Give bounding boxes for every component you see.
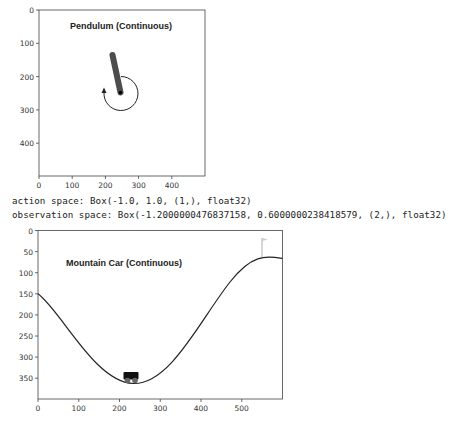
pendulum-xtick-300: 300 — [131, 181, 146, 190]
pendulum-ytick-200: 200 — [20, 73, 35, 82]
mc-ytick-100: 100 — [19, 269, 34, 278]
pendulum-title: Pendulum (Continuous) — [70, 21, 172, 31]
mc-ytick-150: 150 — [19, 290, 34, 299]
mountain-car-plot: 0 50 100 150 200 250 300 350 0 100 200 3… — [19, 227, 283, 414]
mc-xtick-500: 500 — [235, 404, 250, 413]
pendulum-x-ticks: 0 100 200 300 400 — [37, 176, 180, 190]
mountain-car-y-ticks: 0 50 100 150 200 250 300 350 — [19, 227, 38, 384]
pendulum-xtick-0: 0 — [37, 181, 42, 190]
mc-xtick-200: 200 — [112, 404, 127, 413]
pendulum-xtick-400: 400 — [165, 181, 180, 190]
mc-xtick-400: 400 — [194, 404, 209, 413]
mc-ytick-50: 50 — [23, 248, 33, 257]
pendulum-y-ticks: 0 100 200 300 400 — [20, 6, 39, 148]
mc-xtick-300: 300 — [153, 404, 168, 413]
observation-space-output: observation space: Box(-1.20000004768371… — [12, 209, 447, 220]
pendulum-ytick-300: 300 — [20, 106, 35, 115]
mc-ytick-250: 250 — [19, 332, 34, 341]
mc-xtick-0: 0 — [36, 404, 41, 413]
mc-ytick-0: 0 — [28, 227, 33, 236]
mc-ytick-200: 200 — [19, 311, 34, 320]
pendulum-ytick-0: 0 — [29, 6, 34, 15]
pendulum-ytick-100: 100 — [20, 39, 35, 48]
pendulum-pivot — [119, 91, 123, 95]
pendulum-xtick-100: 100 — [65, 181, 80, 190]
mountain-car-title: Mountain Car (Continuous) — [66, 258, 182, 268]
action-space-output: action space: Box(-1.0, 1.0, (1,), float… — [12, 195, 252, 206]
pendulum-plot: 0 100 200 300 400 0 100 200 300 400 Pend… — [20, 6, 205, 190]
mc-xtick-100: 100 — [72, 404, 87, 413]
mountain-car-x-ticks: 0 100 200 300 400 500 — [36, 399, 250, 413]
mc-ytick-300: 300 — [19, 353, 34, 362]
pendulum-xtick-200: 200 — [98, 181, 113, 190]
mc-ytick-350: 350 — [19, 374, 34, 383]
pendulum-ytick-400: 400 — [20, 139, 35, 148]
